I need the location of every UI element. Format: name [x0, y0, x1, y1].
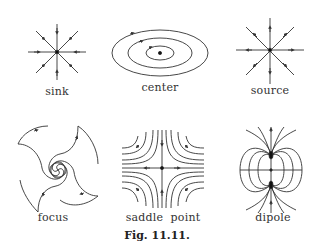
- saddle-point-label: saddle point: [126, 211, 201, 224]
- focus-portrait: [18, 126, 98, 212]
- dipole-portrait: [240, 127, 302, 213]
- center-portrait: [112, 30, 208, 76]
- sink-label: sink: [45, 85, 69, 98]
- saddle-portrait: [122, 130, 204, 208]
- dipole-label: dipole: [255, 211, 290, 224]
- center-label: center: [141, 81, 178, 94]
- source-portrait: [236, 18, 304, 84]
- focus-label: focus: [38, 211, 69, 224]
- source-label: source: [251, 84, 289, 97]
- figure-caption: Fig. 11.11.: [124, 229, 190, 242]
- sink-portrait: [28, 24, 86, 80]
